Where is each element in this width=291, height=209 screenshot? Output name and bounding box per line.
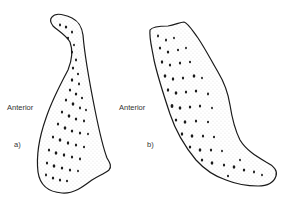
specimen-b-outline: [150, 22, 277, 186]
panel-label-b: b): [147, 140, 154, 149]
figure-canvas: [0, 0, 291, 209]
anterior-label-a: Anterior: [7, 103, 33, 112]
anterior-label-b: Anterior: [119, 103, 145, 112]
panel-label-a: a): [14, 140, 21, 149]
specimen-b: [150, 22, 277, 186]
specimen-a: [37, 14, 110, 193]
